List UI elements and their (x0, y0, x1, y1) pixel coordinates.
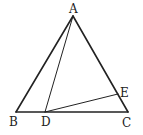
label-A: A (68, 2, 78, 16)
label-B: B (9, 115, 18, 129)
segment-AD (45, 16, 73, 112)
segment-DE (45, 94, 118, 112)
label-C: C (122, 116, 131, 130)
geometry-diagram: A B D C E (0, 0, 143, 135)
segment-AB (16, 16, 73, 112)
label-D: D (41, 115, 51, 129)
label-E: E (120, 86, 129, 100)
